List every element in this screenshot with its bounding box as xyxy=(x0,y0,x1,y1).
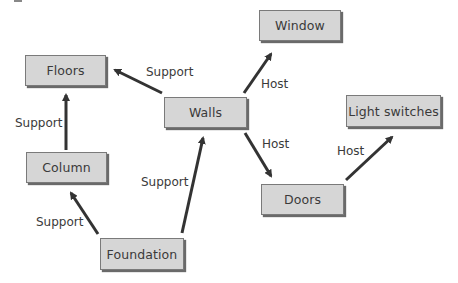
edge-label-foundation-column: Support xyxy=(36,215,83,229)
node-walls: Walls xyxy=(164,97,247,128)
node-window: Window xyxy=(259,10,341,41)
node-floors: Floors xyxy=(25,55,106,86)
node-doors: Doors xyxy=(261,184,344,215)
edge-label-column-floors: Support xyxy=(15,116,62,130)
edge-label-walls-doors: Host xyxy=(262,137,289,151)
edge-label-doors-lightswitches: Host xyxy=(337,144,364,158)
edge-label-walls-floors: Support xyxy=(146,65,193,79)
node-column: Column xyxy=(26,152,107,183)
edge-label-foundation-walls: Support xyxy=(141,175,188,189)
node-light-switches: Light switches xyxy=(346,95,441,127)
relationship-diagram: Floors Window Walls Light switches Colum… xyxy=(0,0,458,283)
edge-label-walls-window: Host xyxy=(261,77,288,91)
edges-layer xyxy=(0,0,458,283)
node-foundation: Foundation xyxy=(100,238,184,270)
